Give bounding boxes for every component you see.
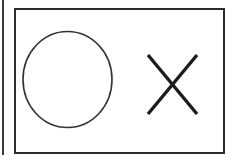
page-background	[0, 0, 233, 161]
drawing-surface	[0, 0, 233, 161]
shape-panel-canvas: O X Circle and cross shape panel	[0, 0, 233, 161]
